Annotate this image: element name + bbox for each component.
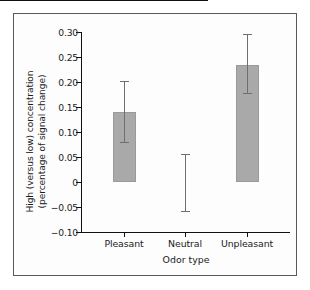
x-tick-label-unpleasant: Unpleasant xyxy=(202,238,292,249)
error-bar-cap-upper-pleasant xyxy=(120,81,129,82)
x-tick-mark xyxy=(185,232,186,237)
error-bar-cap-upper-unpleasant xyxy=(243,34,252,35)
error-bar-stem-unpleasant xyxy=(247,34,248,93)
y-tick-label: 0.15 xyxy=(40,102,78,113)
error-bar-stem-pleasant xyxy=(124,81,125,143)
y-tick-label: 0.05 xyxy=(40,152,78,163)
error-bar-cap-lower-unpleasant xyxy=(243,93,252,94)
x-tick-mark xyxy=(247,232,248,237)
error-bar-cap-lower-neutral xyxy=(181,211,190,212)
error-bar-stem-neutral xyxy=(185,154,186,211)
y-axis-label-line1: High (versus low) concentration xyxy=(25,70,35,212)
y-axis-tick-labels: 0.30 0.25 0.20 0.15 0.10 0.05 0 −0.05 −0… xyxy=(38,0,78,290)
y-tick-label: 0 xyxy=(40,177,78,188)
x-axis-label: Odor type xyxy=(82,254,290,265)
zero-baseline xyxy=(0,0,208,1)
y-tick-label: 0.30 xyxy=(40,27,78,38)
y-tick-label: −0.10 xyxy=(40,227,78,238)
y-tick-label: −0.05 xyxy=(40,202,78,213)
error-bar-cap-upper-neutral xyxy=(181,154,190,155)
y-tick-label: 0.20 xyxy=(40,77,78,88)
chart-plot-area: High (versus low) concentration (percent… xyxy=(0,0,310,290)
y-axis-line xyxy=(81,32,82,233)
y-tick-label: 0.10 xyxy=(40,127,78,138)
error-bar-cap-lower-pleasant xyxy=(120,142,129,143)
x-tick-mark xyxy=(124,232,125,237)
y-tick-label: 0.25 xyxy=(40,52,78,63)
